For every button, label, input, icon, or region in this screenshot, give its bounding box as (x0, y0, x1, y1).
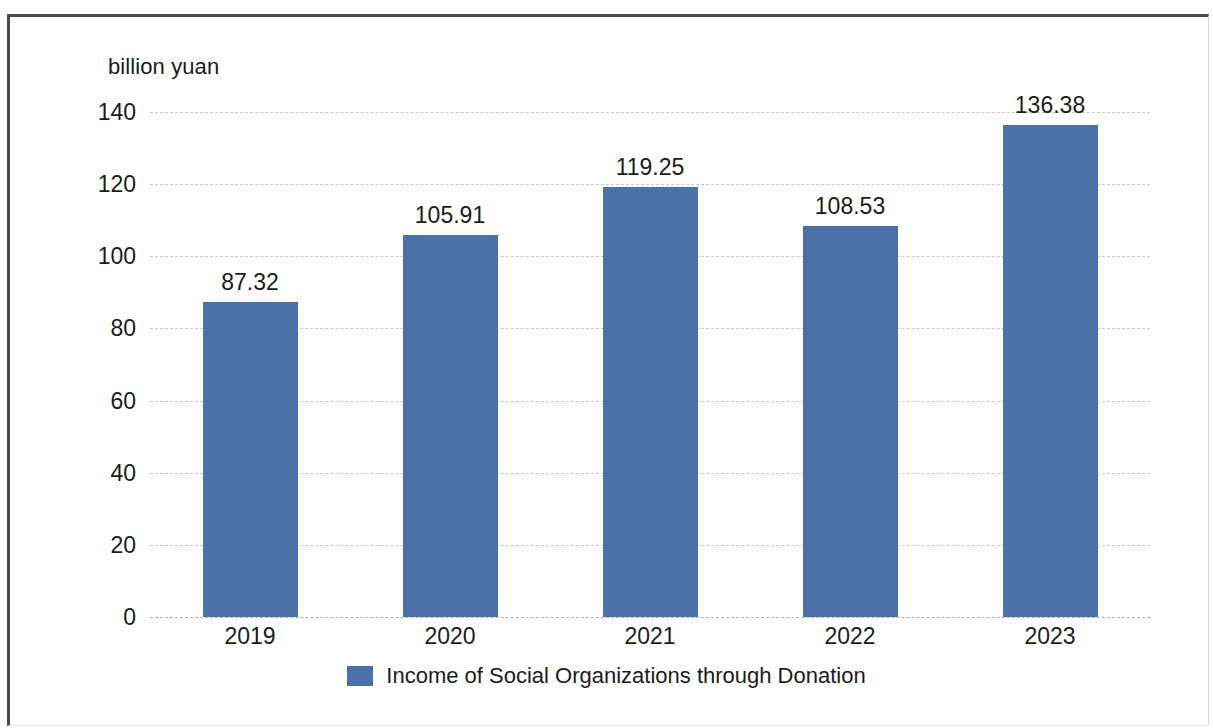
bar-value-label: 105.91 (415, 202, 485, 229)
legend-label: Income of Social Organizations through D… (386, 663, 865, 689)
bar-chart: billion yuan 020406080100120140 87.32105… (0, 0, 1213, 728)
y-axis-tick-label: 60 (0, 387, 136, 414)
y-axis-tick-label: 20 (0, 531, 136, 558)
bar (603, 187, 698, 617)
bar (803, 226, 898, 617)
y-axis-tick-label: 40 (0, 459, 136, 486)
y-axis-tick-label: 100 (0, 243, 136, 270)
gridline (150, 184, 1150, 185)
legend-color-swatch (347, 666, 373, 686)
y-axis-tick-label: 140 (0, 99, 136, 126)
chart-legend: Income of Social Organizations through D… (0, 663, 1213, 689)
gridline (150, 617, 1150, 618)
bar-value-label: 87.32 (221, 269, 279, 296)
x-axis-tick-label: 2021 (624, 623, 675, 650)
y-axis-unit-label: billion yuan (108, 54, 219, 80)
y-axis-tick-label: 120 (0, 171, 136, 198)
bar (1003, 125, 1098, 617)
y-axis-tick-label: 0 (0, 604, 136, 631)
y-axis-tick-labels: 020406080100120140 (0, 112, 136, 617)
x-axis-tick-label: 2022 (824, 623, 875, 650)
x-axis-tick-label: 2020 (424, 623, 475, 650)
bar-value-label: 136.38 (1015, 92, 1085, 119)
scanned-page: billion yuan 020406080100120140 87.32105… (0, 0, 1213, 728)
bar-value-label: 119.25 (616, 154, 685, 181)
bar (203, 302, 298, 617)
bar-value-label: 108.53 (815, 193, 885, 220)
y-axis-tick-label: 80 (0, 315, 136, 342)
gridline (150, 112, 1150, 113)
x-axis-tick-label: 2023 (1024, 623, 1075, 650)
plot-area: 87.32105.91119.25108.53136.38 (150, 112, 1150, 617)
bar (403, 235, 498, 617)
x-axis-tick-label: 2019 (224, 623, 275, 650)
